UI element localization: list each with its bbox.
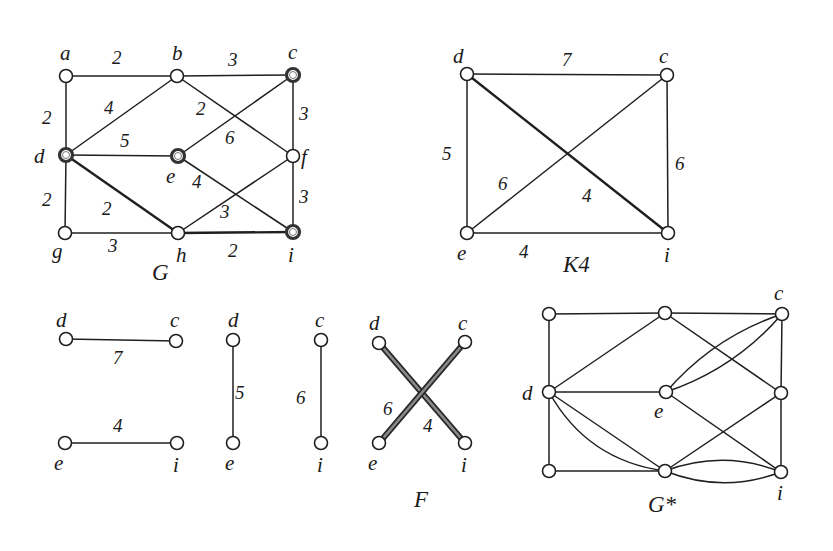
- node-i: [315, 437, 328, 450]
- node-d: [60, 333, 73, 346]
- node-a: [543, 308, 556, 321]
- edge-weight: 2: [228, 240, 238, 261]
- edge-weight: 3: [298, 103, 309, 124]
- edge-c-i: [667, 75, 668, 233]
- edge-weight: 3: [219, 201, 230, 222]
- node-h: [172, 227, 185, 240]
- node-g: [543, 465, 556, 478]
- node-label: c: [659, 44, 669, 68]
- labels: 74dcei: [54, 308, 180, 477]
- graph-title: F: [413, 487, 429, 512]
- edge-weight: 7: [562, 49, 573, 70]
- node-label: e: [166, 164, 175, 188]
- node-label: d: [56, 308, 67, 332]
- node-label: d: [453, 44, 464, 68]
- graph-p3: 6ci: [296, 308, 328, 477]
- edge-weight: 4: [582, 185, 592, 206]
- node-e: [660, 386, 673, 399]
- node-inner-ring: [63, 152, 70, 159]
- graph-title: G*: [648, 492, 677, 517]
- node-i: [459, 437, 472, 450]
- node-label: e: [654, 399, 663, 423]
- edge-h-i: [665, 471, 781, 483]
- edge-weight: 7: [113, 347, 124, 368]
- node-label: c: [774, 281, 784, 305]
- node-inner-ring: [290, 72, 297, 79]
- edge-weight: 2: [112, 47, 122, 68]
- edge-b-c: [665, 313, 782, 314]
- node-label: h: [176, 243, 187, 267]
- node-h: [659, 465, 672, 478]
- node-label: e: [457, 241, 466, 265]
- edge-weight: 2: [42, 189, 52, 210]
- graph-title: K4: [562, 252, 590, 277]
- edges: [379, 342, 465, 443]
- edge-weight: 2: [42, 107, 52, 128]
- node-label: b: [172, 41, 183, 65]
- node-label: d: [369, 311, 380, 335]
- node-label: e: [368, 451, 377, 475]
- edge-d-h: [549, 392, 665, 471]
- node-label: e: [225, 451, 234, 475]
- edge-h-i: [178, 232, 293, 233]
- edge-d-c: [66, 339, 176, 341]
- node-g: [59, 227, 72, 240]
- edge-weight: 6: [296, 387, 306, 408]
- graph-title: G: [152, 260, 169, 285]
- edge-h-i: [665, 460, 781, 472]
- node-c: [459, 336, 472, 349]
- node-label: d: [34, 144, 45, 168]
- node-label: i: [664, 243, 670, 267]
- node-label: f: [301, 145, 310, 169]
- node-d: [227, 334, 240, 347]
- node-b: [171, 70, 184, 83]
- edge-weight: 6: [225, 127, 235, 148]
- node-label: c: [170, 308, 180, 332]
- edges: [467, 74, 668, 233]
- node-c: [170, 335, 183, 348]
- edge-weight: 3: [107, 235, 118, 256]
- edge-d-h: [66, 155, 178, 233]
- edge-a-b: [549, 313, 665, 314]
- graph-g: 232426352243332abcdefghiG: [34, 40, 310, 285]
- node-label: c: [458, 311, 468, 335]
- node-b: [659, 307, 672, 320]
- node-c: [776, 308, 789, 321]
- node-label: i: [288, 243, 294, 267]
- graph-gstar: cdeiG*: [522, 281, 789, 517]
- labels: 756446dceiK4: [442, 44, 685, 277]
- node-label: c: [288, 40, 298, 64]
- nodes: [59, 69, 300, 240]
- node-e: [59, 437, 72, 450]
- node-inner-ring: [175, 153, 182, 160]
- node-label: i: [173, 453, 179, 477]
- node-c: [315, 334, 328, 347]
- graph-f: 46dceiF: [368, 311, 472, 512]
- edge-weight: 5: [235, 382, 245, 403]
- edge-weight: 6: [383, 398, 393, 419]
- node-a: [60, 70, 73, 83]
- node-label: g: [52, 239, 63, 263]
- node-e: [373, 437, 386, 450]
- node-d: [543, 386, 556, 399]
- edge-weight: 2: [102, 198, 112, 219]
- edge-weight: 4: [104, 97, 114, 118]
- node-label: e: [54, 451, 63, 475]
- edge-weight: 6: [675, 153, 685, 174]
- edge-weight: 5: [120, 130, 130, 151]
- node-i: [775, 466, 788, 479]
- edge-weight: 4: [519, 241, 529, 262]
- edge-d-c: [467, 74, 667, 75]
- edge-weight: 3: [298, 186, 309, 207]
- edge-d-e: [66, 155, 178, 156]
- node-d: [373, 337, 386, 350]
- node-e: [227, 437, 240, 450]
- graph-figure: 232426352243332abcdefghiG756446dceiK474d…: [0, 0, 833, 551]
- edge-weight: 5: [442, 143, 452, 164]
- edge-c-f: [781, 314, 782, 393]
- node-d: [461, 68, 474, 81]
- node-c: [661, 69, 674, 82]
- node-label: d: [522, 381, 533, 405]
- node-inner-ring: [290, 229, 297, 236]
- edge-b-f: [665, 313, 781, 393]
